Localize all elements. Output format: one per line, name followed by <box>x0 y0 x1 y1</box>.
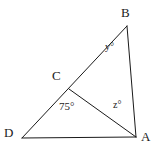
angle-label-z: z° <box>113 100 121 110</box>
angle-label-75: 75° <box>59 101 74 112</box>
vertex-label-c: C <box>52 69 61 82</box>
vertex-label-a: A <box>141 130 150 143</box>
diagram-background <box>0 0 164 158</box>
angle-label-y: y° <box>105 42 114 52</box>
geometry-diagram: B C D A y° 75° z° <box>0 0 164 158</box>
diagram-canvas <box>0 0 164 158</box>
vertex-label-b: B <box>121 6 130 19</box>
vertex-label-d: D <box>4 126 13 139</box>
